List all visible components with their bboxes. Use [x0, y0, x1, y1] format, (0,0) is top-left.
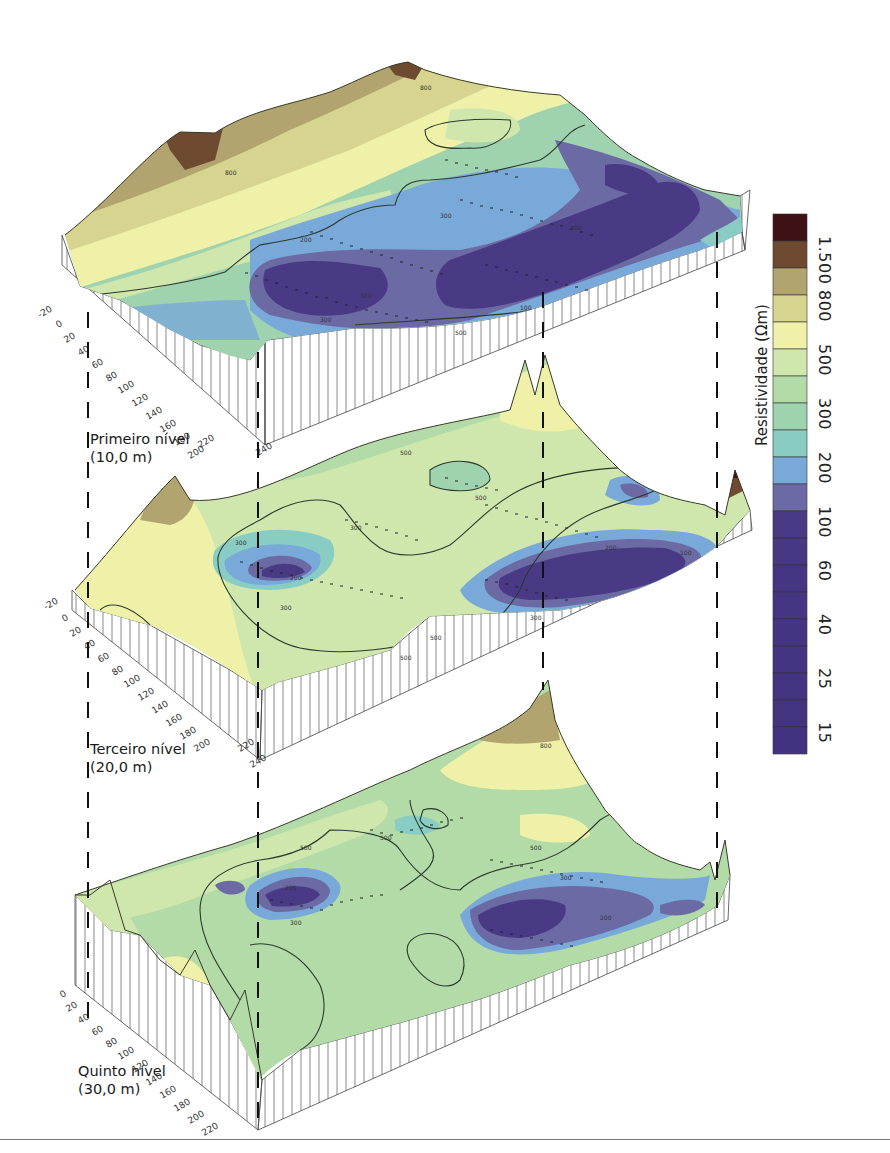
- svg-text:160: 160: [164, 711, 184, 728]
- svg-text:0: 0: [54, 318, 64, 330]
- svg-text:500: 500: [400, 449, 412, 456]
- legend-title-text: Resistividade (Ωm): [753, 304, 771, 446]
- level-label-primeiro: Primeiro nível (10,0 m): [90, 430, 189, 466]
- level-label-quinto: Quinto nível (30,0 m): [78, 1062, 166, 1098]
- svg-text:200: 200: [192, 736, 212, 753]
- legend-swatch: [773, 538, 807, 565]
- svg-text:200: 200: [290, 574, 302, 581]
- legend-tick: 60: [812, 560, 838, 620]
- svg-text:220: 220: [200, 1120, 220, 1137]
- legend-swatch: [773, 565, 807, 592]
- legend-swatch: [773, 403, 807, 430]
- svg-text:300: 300: [560, 874, 572, 881]
- svg-text:200: 200: [285, 884, 297, 891]
- level-name: Quinto nível: [78, 1062, 166, 1080]
- svg-text:300: 300: [320, 316, 332, 323]
- svg-text:800: 800: [420, 84, 432, 91]
- legend-swatch: [773, 349, 807, 376]
- legend-swatch: [773, 727, 807, 754]
- legend-swatch: [773, 457, 807, 484]
- svg-text:20: 20: [62, 330, 77, 345]
- svg-text:180: 180: [172, 1096, 192, 1113]
- legend-tick: 40: [812, 614, 838, 674]
- level-depth: (20,0 m): [90, 758, 186, 776]
- svg-text:-20: -20: [36, 304, 54, 320]
- svg-text:0: 0: [58, 988, 68, 1000]
- svg-text:140: 140: [144, 404, 164, 421]
- legend-tick: 500: [812, 344, 838, 404]
- svg-text:80: 80: [104, 1035, 119, 1050]
- level-label-terceiro: Terceiro nível (20,0 m): [90, 740, 186, 776]
- svg-text:20: 20: [64, 999, 79, 1014]
- legend-swatch: [773, 673, 807, 700]
- legend-tick: 1.500: [812, 236, 838, 296]
- svg-text:220: 220: [196, 432, 216, 449]
- legend-swatch: [773, 619, 807, 646]
- level-depth: (10,0 m): [90, 448, 189, 466]
- legend-tick: 800: [812, 290, 838, 350]
- legend-title: Resistividade (Ωm): [735, 246, 759, 446]
- svg-text:200: 200: [570, 224, 582, 231]
- svg-text:100: 100: [680, 549, 692, 556]
- caption-divider: [0, 1139, 890, 1140]
- svg-text:500: 500: [300, 844, 312, 851]
- svg-text:140: 140: [150, 698, 170, 715]
- legend-swatch: [773, 268, 807, 295]
- svg-text:200: 200: [605, 544, 617, 551]
- svg-text:-20: -20: [42, 596, 60, 612]
- svg-text:800: 800: [540, 742, 552, 749]
- legend-tick-labels: 1.500 800 500 300 200 100 60 40 25 15: [812, 214, 838, 754]
- svg-text:100: 100: [520, 304, 532, 311]
- svg-text:200: 200: [186, 1108, 206, 1125]
- level-name: Primeiro nível: [90, 430, 189, 448]
- legend-swatch: [773, 376, 807, 403]
- legend-swatch: [773, 484, 807, 511]
- svg-text:300: 300: [440, 212, 452, 219]
- legend-tick: 200: [812, 452, 838, 512]
- svg-text:300: 300: [360, 292, 372, 299]
- legend-tick: 100: [812, 506, 838, 566]
- level-name: Terceiro nível: [90, 740, 186, 758]
- svg-text:300: 300: [235, 539, 247, 546]
- legend-tick: 15: [812, 722, 838, 782]
- svg-text:300: 300: [530, 614, 542, 621]
- svg-text:500: 500: [455, 329, 467, 336]
- legend-swatch: [773, 430, 807, 457]
- svg-text:60: 60: [90, 356, 105, 371]
- svg-text:500: 500: [475, 494, 487, 501]
- svg-text:120: 120: [130, 391, 150, 408]
- legend-swatch: [773, 592, 807, 619]
- svg-text:60: 60: [90, 1023, 105, 1038]
- legend-swatch: [773, 295, 807, 322]
- legend-colorbar: [773, 214, 807, 754]
- svg-text:500: 500: [430, 634, 442, 641]
- legend-swatch: [773, 214, 807, 241]
- svg-text:300: 300: [350, 524, 362, 531]
- level-depth: (30,0 m): [78, 1080, 166, 1098]
- svg-text:20: 20: [68, 624, 83, 639]
- panel-level-3: 300200300 500500300 200100300 500500 -20…: [42, 340, 760, 770]
- svg-text:200: 200: [300, 236, 312, 243]
- legend-swatch: [773, 700, 807, 727]
- legend-swatch: [773, 646, 807, 673]
- legend-swatch: [773, 241, 807, 268]
- svg-text:80: 80: [110, 663, 125, 678]
- legend-swatch: [773, 511, 807, 538]
- svg-text:100: 100: [116, 1044, 136, 1061]
- svg-text:60: 60: [96, 650, 111, 665]
- svg-text:300: 300: [280, 604, 292, 611]
- legend-tick: 25: [812, 668, 838, 728]
- legend-swatch: [773, 322, 807, 349]
- svg-text:0: 0: [60, 612, 70, 624]
- svg-text:80: 80: [104, 369, 119, 384]
- svg-text:120: 120: [136, 685, 156, 702]
- svg-text:800: 800: [225, 169, 237, 176]
- legend-tick: 300: [812, 398, 838, 458]
- panel-level-1: 200300300 500800800 100200300 -20 0 20 4…: [36, 40, 760, 461]
- svg-text:300: 300: [290, 919, 302, 926]
- svg-text:200: 200: [600, 914, 612, 921]
- svg-text:500: 500: [400, 654, 412, 661]
- svg-text:100: 100: [122, 672, 142, 689]
- svg-text:40: 40: [82, 637, 97, 652]
- resistivity-block-diagram: 200300300 500800800 100200300 -20 0 20 4…: [0, 0, 890, 1153]
